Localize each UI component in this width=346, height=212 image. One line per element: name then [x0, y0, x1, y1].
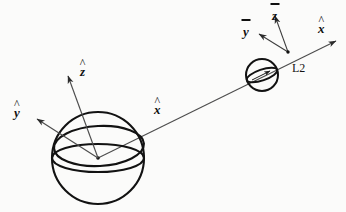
- label-l2-y-base: y: [243, 25, 249, 38]
- earth-x-axis-line: [98, 41, 336, 158]
- label-l2-y-axis: y: [243, 25, 249, 38]
- label-l2-z-axis: z: [272, 9, 277, 22]
- hat-accent-icon: ^: [154, 95, 160, 107]
- label-earth-y-axis: ^ y: [14, 106, 20, 119]
- diagram-svg: [0, 0, 346, 212]
- bar-accent-icon: [241, 19, 250, 21]
- hat-accent-icon: ^: [318, 14, 324, 26]
- l2-sphere: [245, 59, 279, 91]
- l2-origin-dot: [286, 50, 289, 53]
- label-earth-z-axis: ^ z: [80, 65, 85, 78]
- hat-accent-icon: ^: [80, 57, 86, 69]
- label-l2-z-base: z: [272, 9, 277, 22]
- bar-accent-icon: [270, 3, 279, 5]
- earth-sphere: [52, 112, 145, 204]
- label-earth-x-axis: ^ x: [154, 103, 161, 116]
- l2-y-axis-line: [259, 34, 288, 52]
- label-l2-point: L2: [292, 62, 305, 74]
- hat-accent-icon: ^: [14, 98, 20, 110]
- figure-canvas: ^ z ^ y ^ x z y ^ x L2: [0, 0, 346, 212]
- label-l2-x-axis: ^ x: [318, 22, 325, 35]
